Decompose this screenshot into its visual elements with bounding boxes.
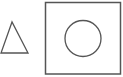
circle-shape	[65, 21, 101, 57]
square-frame	[46, 3, 121, 75]
diagram-canvas	[0, 0, 123, 77]
triangle-shape	[1, 22, 28, 53]
